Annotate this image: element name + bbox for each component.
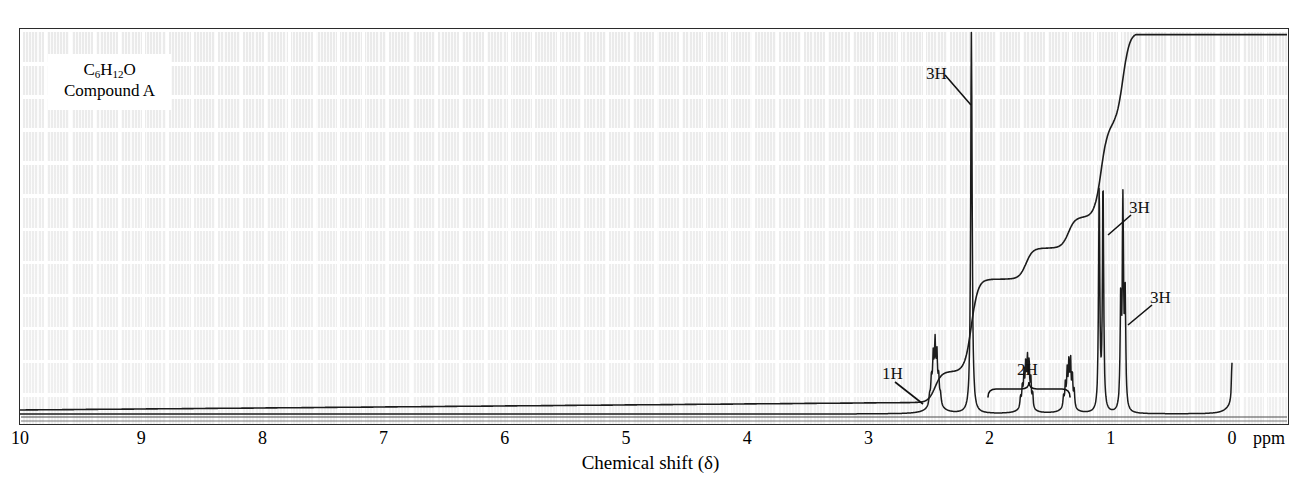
sample-label-box: C6H12O Compound A	[48, 54, 171, 110]
x-tick-1: 1	[1106, 428, 1115, 449]
x-axis-tick-labels: 10 9 8 7 6 5 4 3 2 1 0 ppm	[0, 428, 1301, 454]
formula-o: O	[124, 60, 136, 79]
annotation-2h-methylene: 2H	[1017, 360, 1038, 380]
x-axis-title: Chemical shift (δ)	[0, 452, 1301, 474]
molecular-formula: C6H12O	[64, 60, 155, 81]
x-tick-6: 6	[500, 428, 509, 449]
x-tick-0: 0	[1228, 428, 1237, 449]
x-tick-10: 10	[11, 428, 29, 449]
x-tick-7: 7	[379, 428, 388, 449]
x-tick-4: 4	[743, 428, 752, 449]
annotation-3h-methyl-a: 3H	[1129, 198, 1150, 218]
annotation-3h-methyl-b: 3H	[1150, 288, 1171, 308]
formula-h-count: 12	[113, 68, 124, 80]
formula-c: C	[83, 60, 94, 79]
x-tick-9: 9	[137, 428, 146, 449]
nmr-spectrum-figure: C6H12O Compound A 3H 3H 3H 1H 2H 10 9 8 …	[0, 0, 1301, 481]
annotation-3h-acetyl: 3H	[926, 64, 947, 84]
x-tick-5: 5	[622, 428, 631, 449]
x-axis-unit-label: ppm	[1253, 428, 1285, 449]
formula-h: H	[100, 60, 112, 79]
annotation-1h-methine: 1H	[882, 364, 903, 384]
x-tick-8: 8	[258, 428, 267, 449]
compound-name: Compound A	[64, 81, 155, 102]
x-tick-3: 3	[864, 428, 873, 449]
spectrum-plot-area	[19, 28, 1289, 425]
x-tick-2: 2	[985, 428, 994, 449]
grid-major-horizontal	[20, 29, 1288, 424]
